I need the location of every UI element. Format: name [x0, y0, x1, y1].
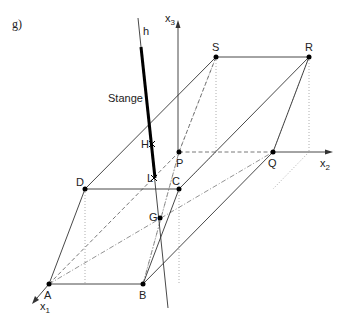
point-a [47, 282, 52, 287]
label-d: D [76, 176, 84, 188]
label-p: P [176, 157, 183, 169]
point-q [271, 150, 276, 155]
label-b: B [139, 289, 146, 301]
figure-label: g) [12, 17, 22, 31]
rod [141, 47, 155, 178]
label-q: Q [268, 157, 277, 169]
label-c: C [172, 175, 180, 187]
x2-label: x2 [320, 157, 331, 172]
rod-label: Stange [108, 92, 143, 104]
point-b [141, 282, 146, 287]
geometry-diagram: g) [0, 0, 343, 319]
hidden-edges [49, 57, 273, 284]
label-r: R [305, 41, 313, 53]
x3-arrow-icon [176, 20, 181, 28]
line-h [138, 18, 168, 308]
x1-label: x1 [40, 300, 51, 315]
label-g: G [149, 211, 158, 223]
point-s [214, 55, 219, 60]
x3-label: x3 [165, 12, 176, 27]
point-r [307, 55, 312, 60]
point-c [177, 187, 182, 192]
x2-arrow-icon [325, 150, 333, 155]
line-h-label: h [143, 25, 149, 37]
label-s: S [212, 41, 219, 53]
label-l: L [147, 172, 153, 184]
point-g [158, 216, 163, 221]
label-h: H [141, 138, 149, 150]
point-p [177, 150, 182, 155]
points [47, 55, 312, 287]
